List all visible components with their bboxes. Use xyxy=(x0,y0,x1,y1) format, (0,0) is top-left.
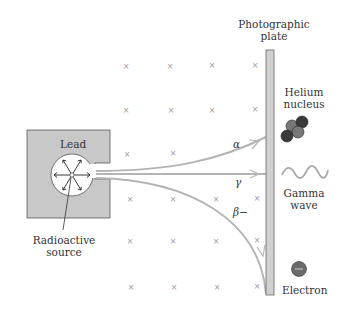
svg-text:×: × xyxy=(171,283,178,292)
svg-text:×: × xyxy=(254,282,261,291)
helium-label: Helium nucleus xyxy=(278,86,330,110)
helium-nucleus-icon xyxy=(281,116,308,142)
gamma-label: Gamma wave xyxy=(278,187,330,211)
helium-label-line1: Helium xyxy=(278,86,330,98)
gamma-wave-icon xyxy=(282,166,328,178)
plate-label-line1: Photographic xyxy=(236,18,312,30)
electron-icon xyxy=(292,262,307,277)
svg-text:×: × xyxy=(124,150,131,159)
plate-label: Photographic plate xyxy=(236,18,312,42)
photographic-plate xyxy=(266,50,274,295)
svg-text:×: × xyxy=(128,283,135,292)
svg-text:×: × xyxy=(170,237,177,246)
gamma-label-line1: Gamma xyxy=(278,187,330,199)
plate-label-line2: plate xyxy=(236,30,312,42)
source-label: Radioactive source xyxy=(28,234,100,258)
svg-text:×: × xyxy=(209,61,216,70)
beta-ray xyxy=(96,178,266,294)
diagram-graphics: ×××× ×××× ×× ×××× ×××× ×××× xyxy=(0,0,351,310)
svg-text:×: × xyxy=(252,105,259,114)
svg-text:×: × xyxy=(123,106,130,115)
source-label-line2: source xyxy=(28,246,100,258)
lead-label: Lead xyxy=(60,138,86,150)
gamma-label-line2: wave xyxy=(278,199,330,211)
svg-text:×: × xyxy=(209,106,216,115)
svg-text:×: × xyxy=(170,149,177,158)
svg-text:×: × xyxy=(127,195,134,204)
svg-text:×: × xyxy=(170,195,177,204)
svg-text:×: × xyxy=(167,62,174,71)
svg-text:×: × xyxy=(123,62,130,71)
svg-text:×: × xyxy=(214,283,221,292)
beta-symbol: β− xyxy=(233,206,248,218)
alpha-symbol: α xyxy=(233,138,240,150)
source-label-line1: Radioactive xyxy=(28,234,100,246)
svg-text:×: × xyxy=(252,61,259,70)
svg-text:×: × xyxy=(213,237,220,246)
gamma-symbol: γ xyxy=(235,176,241,188)
alpha-ray xyxy=(96,137,266,171)
svg-text:×: × xyxy=(213,195,220,204)
svg-text:×: × xyxy=(127,237,134,246)
svg-text:×: × xyxy=(168,106,175,115)
electron-label: Electron xyxy=(282,284,327,296)
svg-text:×: × xyxy=(254,194,261,203)
svg-text:×: × xyxy=(254,236,261,245)
radioactive-source-dot xyxy=(70,173,74,177)
helium-label-line2: nucleus xyxy=(278,98,330,110)
radioactivity-diagram: ×××× ×××× ×× ×××× ×××× ×××× xyxy=(0,0,351,310)
